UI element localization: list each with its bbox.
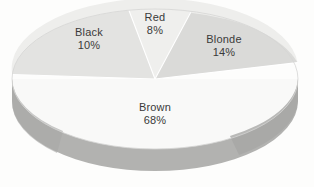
- pie-chart: Black 10% Red 8% Blonde 14% Brown 68%: [0, 0, 314, 187]
- pie-top-face: [12, 0, 298, 149]
- pie-chart-svg: [0, 0, 314, 187]
